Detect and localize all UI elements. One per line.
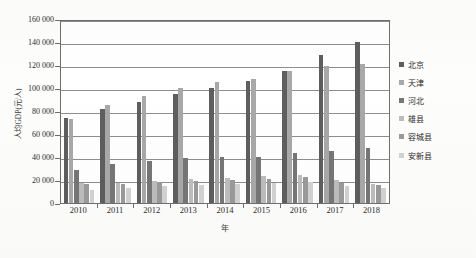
x-tick-mark [280,204,281,208]
bar-容城县-2011 [121,184,126,203]
legend-swatch-icon [399,98,404,103]
bar-容城县-2015 [267,179,272,203]
legend-item-安新县: 安新县 [399,146,473,164]
bar-容城县-2018 [376,185,381,203]
bar-group [173,21,204,203]
bar-天津-2018 [360,64,365,203]
bar-北京-2015 [246,81,251,203]
legend-swatch-icon [399,62,404,67]
plot-area [60,20,390,204]
bar-安新县-2017 [345,186,350,203]
legend-label: 雄县 [408,113,424,124]
y-tick-label: 60 000 [0,130,54,139]
y-tick-label: 0 [0,199,54,208]
x-tick-label: 2017 [318,205,352,221]
y-tick-label: 120 000 [0,61,54,70]
x-tick-mark [97,204,98,208]
x-tick-label: 2015 [245,205,279,221]
bar-天津-2011 [105,105,110,203]
bar-天津-2013 [178,88,183,203]
x-axis-ticks: 201020112012201320142015201620172018 [60,205,390,221]
bar-天津-2015 [251,79,256,203]
bar-北京-2018 [355,42,360,203]
x-tick-mark [317,204,318,208]
bar-group [282,21,313,203]
bar-group [137,21,168,203]
bar-河北-2017 [329,151,334,203]
legend-item-容城县: 容城县 [399,128,473,146]
y-tick-label: 100 000 [0,84,54,93]
y-tick-label: 160 000 [0,15,54,24]
bar-雄县-2016 [298,175,303,203]
bar-安新县-2012 [162,186,167,203]
bar-雄县-2012 [152,181,157,203]
legend-swatch-icon [399,116,404,121]
bar-北京-2010 [64,118,69,203]
legend-swatch-icon [399,134,404,139]
legend-label: 河北 [408,95,424,106]
bar-容城县-2013 [194,181,199,203]
legend-item-天津: 天津 [399,73,473,91]
x-tick-mark [353,204,354,208]
bar-北京-2012 [137,102,142,203]
x-tick-label: 2011 [98,205,132,221]
bar-容城县-2012 [157,182,162,203]
bar-安新县-2018 [381,188,386,203]
x-tick-label: 2010 [61,205,95,221]
legend-swatch-icon [399,80,404,85]
x-tick-mark [207,204,208,208]
x-tick-label: 2014 [208,205,242,221]
bar-group [246,21,277,203]
bar-group [64,21,95,203]
bar-河北-2013 [183,158,188,203]
legend-label: 容城县 [408,131,432,142]
bar-河北-2012 [147,161,152,203]
bar-北京-2014 [209,88,214,203]
legend-item-北京: 北京 [399,55,473,73]
bar-北京-2016 [282,71,287,203]
bar-安新县-2014 [235,184,240,203]
bar-雄县-2015 [261,176,266,203]
bar-group [209,21,240,203]
legend-swatch-icon [399,153,404,158]
bar-group [319,21,350,203]
bar-雄县-2010 [79,183,84,203]
bar-容城县-2017 [339,183,344,203]
chart-legend: 北京天津河北雄县容城县安新县 [399,55,473,164]
bar-groups [61,21,389,203]
x-tick-label: 2012 [135,205,169,221]
bar-北京-2017 [319,55,324,203]
bar-雄县-2014 [225,178,230,203]
bar-安新县-2015 [272,183,277,203]
y-tick-label: 80 000 [0,107,54,116]
bar-北京-2011 [100,109,105,203]
x-tick-label: 2016 [281,205,315,221]
bar-天津-2016 [287,71,292,203]
bar-天津-2014 [215,82,220,203]
bar-天津-2017 [324,66,329,203]
bar-河北-2015 [256,157,261,203]
legend-label: 安新县 [408,150,432,161]
y-tick-label: 140 000 [0,38,54,47]
figure-container: 人均GDP(元/人) 020 00040 00060 00080 000100 … [0,0,476,258]
bar-雄县-2017 [334,180,339,203]
y-tick-label: 40 000 [0,153,54,162]
x-tick-mark [170,204,171,208]
bar-河北-2010 [74,170,79,203]
bar-雄县-2011 [116,183,121,203]
x-tick-label: 2013 [171,205,205,221]
bar-group [355,21,386,203]
bar-安新县-2011 [126,188,131,203]
bar-河北-2016 [293,153,298,203]
bar-安新县-2010 [90,190,95,203]
x-tick-label: 2018 [355,205,389,221]
bar-group [100,21,131,203]
legend-label: 北京 [408,59,424,70]
x-tick-mark [243,204,244,208]
bar-容城县-2014 [230,180,235,203]
bar-雄县-2013 [189,179,194,203]
bar-容城县-2010 [84,184,89,203]
bar-雄县-2018 [371,184,376,203]
legend-item-河北: 河北 [399,91,473,109]
legend-label: 天津 [408,77,424,88]
